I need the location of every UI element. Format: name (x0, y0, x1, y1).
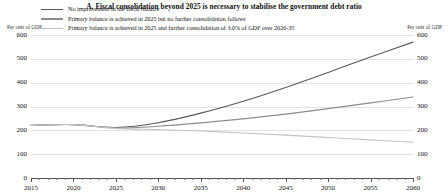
x-axis-minor-tick (184, 178, 185, 180)
x-axis-tick-label: 2015 (24, 185, 38, 192)
x-axis-minor-tick (260, 178, 261, 180)
y-axis-tick-label: 100 (17, 151, 28, 158)
x-axis-major-tick (328, 178, 329, 182)
y-axis-label-right: Per cent of GDP (407, 24, 442, 30)
legend-label: Primary balance is achieved in 2025 but … (68, 16, 246, 22)
x-axis-minor-tick (124, 178, 125, 180)
x-axis-tick-label: 2060 (406, 185, 420, 192)
x-axis-minor-tick (226, 178, 227, 180)
legend-item: Primary balance is achieved in 2025 but … (41, 15, 294, 24)
x-axis-major-tick (201, 178, 202, 182)
x-axis-minor-tick (133, 178, 134, 180)
x-axis-minor-tick (150, 178, 151, 180)
x-axis-minor-tick (99, 178, 100, 180)
x-axis-major-tick (371, 178, 372, 182)
y-axis-tick-label: 200 (417, 127, 428, 134)
x-axis-minor-tick (56, 178, 57, 180)
x-axis-tick-label: 2030 (151, 185, 165, 192)
x-axis-minor-tick (175, 178, 176, 180)
x-axis-minor-tick (354, 178, 355, 180)
x-axis-minor-tick (209, 178, 210, 180)
x-axis-minor-tick (405, 178, 406, 180)
x-axis-major-tick (116, 178, 117, 182)
x-axis-major-tick (73, 178, 74, 182)
x-axis-major-tick (413, 178, 414, 182)
y-axis-tick-label: 100 (417, 151, 428, 158)
x-axis-minor-tick (39, 178, 40, 180)
x-axis-minor-tick (311, 178, 312, 180)
x-axis-tick-label: 2020 (66, 185, 80, 192)
legend-swatch (41, 18, 63, 19)
x-axis-minor-tick (235, 178, 236, 180)
legend-swatch (41, 9, 63, 10)
x-axis-minor-tick (277, 178, 278, 180)
x-axis-minor-tick (65, 178, 66, 180)
x-axis-major-tick (243, 178, 244, 182)
y-axis-tick-label: 200 (17, 127, 28, 134)
x-axis-minor-tick (48, 178, 49, 180)
plot-area: 6005004003002001000 6005004003002001000 … (31, 35, 413, 178)
x-axis-tick-label: 2045 (279, 185, 293, 192)
x-axis-minor-tick (320, 178, 321, 180)
series-lines (31, 35, 413, 178)
chart-panel: A. Fiscal consolidation beyond 2025 is n… (0, 0, 448, 193)
x-axis-minor-tick (252, 178, 253, 180)
x-axis-tick-label: 2050 (321, 185, 335, 192)
x-axis-minor-tick (294, 178, 295, 180)
y-axis-tick-label: 0 (24, 175, 28, 182)
y-axis-tick-label: 0 (417, 175, 421, 182)
y-axis-label-left: Per cent of GDP (7, 24, 42, 30)
x-axis-minor-tick (337, 178, 338, 180)
legend-item: No improvement in the fiscal balance (41, 5, 294, 14)
x-axis-minor-tick (303, 178, 304, 180)
x-axis-minor-tick (388, 178, 389, 180)
y-axis-tick-label: 600 (17, 32, 28, 39)
y-axis-tick-label: 300 (417, 103, 428, 110)
y-axis-tick-label: 500 (417, 55, 428, 62)
x-axis-minor-tick (107, 178, 108, 180)
x-axis-major-tick (31, 178, 32, 182)
x-axis-major-tick (158, 178, 159, 182)
x-axis-minor-tick (379, 178, 380, 180)
x-axis-minor-tick (218, 178, 219, 180)
y-axis-tick-label: 600 (417, 32, 428, 39)
x-axis-minor-tick (345, 178, 346, 180)
x-axis-minor-tick (396, 178, 397, 180)
legend-item: Primary balance is achieved in 2025 and … (41, 24, 294, 33)
chart-legend: No improvement in the fiscal balancePrim… (41, 5, 294, 34)
x-axis-minor-tick (82, 178, 83, 180)
x-axis-minor-tick (269, 178, 270, 180)
x-axis-tick-label: 2035 (194, 185, 208, 192)
legend-label: No improvement in the fiscal balance (68, 6, 160, 12)
x-axis-minor-tick (362, 178, 363, 180)
legend-swatch (41, 28, 63, 29)
x-axis-major-tick (286, 178, 287, 182)
x-axis-minor-tick (167, 178, 168, 180)
x-axis-minor-tick (141, 178, 142, 180)
x-axis-tick-label: 2055 (364, 185, 378, 192)
x-axis-tick-label: 2040 (236, 185, 250, 192)
x-axis-line (31, 178, 413, 179)
series-line (31, 97, 413, 128)
y-axis-tick-label: 500 (17, 55, 28, 62)
series-line (31, 124, 413, 142)
y-axis-tick-label: 400 (17, 79, 28, 86)
y-axis-tick-label: 300 (17, 103, 28, 110)
legend-label: Primary balance is achieved in 2025 and … (68, 25, 294, 31)
series-line (31, 42, 413, 127)
x-axis-minor-tick (90, 178, 91, 180)
x-axis-tick-label: 2025 (109, 185, 123, 192)
x-axis-minor-tick (192, 178, 193, 180)
y-axis-tick-label: 400 (417, 79, 428, 86)
